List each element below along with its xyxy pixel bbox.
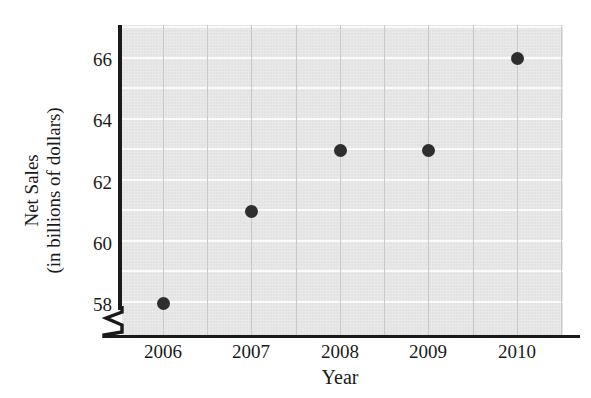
- gridline-vertical-2006: [163, 25, 164, 336]
- data-point-2009: [422, 144, 435, 157]
- x-tick-label-2006: 2006: [118, 341, 208, 363]
- x-tick-label-2010: 2010: [472, 341, 562, 363]
- y-axis-title-line1: Net Sales: [21, 85, 43, 295]
- x-axis-line: [104, 335, 580, 338]
- gridline-horizontal-62: [122, 179, 563, 181]
- net-sales-scatter-chart: 58 60 62 64 66 2006 2007 2008 2009 2010 …: [0, 0, 591, 398]
- data-point-2006: [157, 297, 170, 310]
- gridline-horizontal-59: [122, 270, 563, 272]
- gridline-horizontal-58: [122, 301, 563, 303]
- gridline-horizontal-67: [122, 26, 563, 28]
- plot-area: [122, 25, 563, 336]
- data-point-2007: [245, 205, 258, 218]
- x-tick-label-2007: 2007: [206, 341, 296, 363]
- x-axis-title: Year: [290, 366, 390, 389]
- y-axis-line: [118, 25, 122, 310]
- gridline-vertical-2008: [340, 25, 341, 336]
- gridline-vertical-2009: [428, 25, 429, 336]
- gridline-vertical-2009-5: [473, 25, 474, 336]
- gridline-vertical-2010: [517, 25, 518, 336]
- gridline-vertical-2007: [251, 25, 252, 336]
- gridline-horizontal-60: [122, 240, 563, 242]
- y-axis-title-line2: (in billions of dollars): [43, 85, 65, 295]
- gridline-horizontal-66: [122, 57, 563, 59]
- y-tick-label-66: 66: [52, 50, 112, 69]
- gridline-horizontal-61: [122, 209, 563, 211]
- gridline-vertical-2007-5: [296, 25, 297, 336]
- data-point-2008: [334, 144, 347, 157]
- data-point-2010: [511, 52, 524, 65]
- x-tick-label-2009: 2009: [383, 341, 473, 363]
- gridline-vertical-2008-5: [384, 25, 385, 336]
- y-axis-title: Net Sales (in billions of dollars): [21, 85, 66, 295]
- gridline-horizontal-64: [122, 118, 563, 120]
- x-tick-label-2008: 2008: [295, 341, 385, 363]
- gridline-horizontal-65: [122, 87, 563, 89]
- y-tick-label-58: 58: [52, 295, 112, 314]
- gridline-vertical-2010-5: [561, 25, 562, 336]
- gridline-vertical-2006-5: [207, 25, 208, 336]
